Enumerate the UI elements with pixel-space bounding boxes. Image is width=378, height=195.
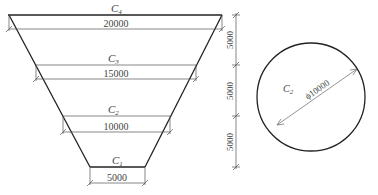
section-label-c1: C1 <box>112 154 123 168</box>
section-label-c2: C2 <box>108 103 119 117</box>
dimension-15000: 15000 <box>104 68 129 79</box>
height-dim-top: 5000 <box>225 31 235 50</box>
funnel-diagram: C4 C3 C2 C1 20000 15000 10000 5000 5000 … <box>0 0 378 195</box>
dimension-20000: 20000 <box>104 18 129 29</box>
diameter-line <box>277 69 357 125</box>
dimension-5000: 5000 <box>107 172 127 183</box>
height-dim-bottom: 5000 <box>225 133 235 152</box>
section-label-c4: C4 <box>111 2 122 16</box>
circle-label: C2 <box>283 83 294 96</box>
dimension-10000: 10000 <box>104 121 129 132</box>
section-label-c3: C3 <box>108 52 119 66</box>
trapezoid-outline <box>8 15 222 167</box>
height-dim-middle: 5000 <box>225 82 235 101</box>
